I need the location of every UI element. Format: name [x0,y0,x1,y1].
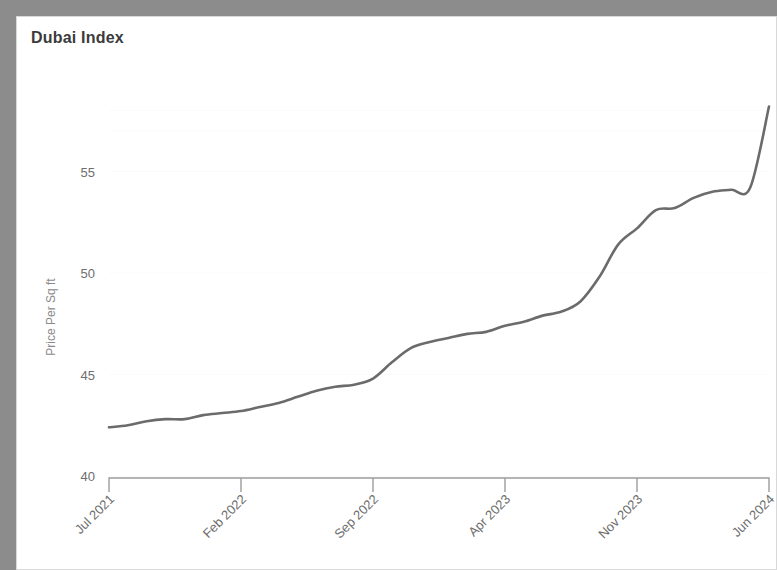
screenshot-frame: Dubai Index 40455055 Jul 2021Feb 2022Sep… [0,0,777,570]
chart-card: Dubai Index 40455055 Jul 2021Feb 2022Sep… [16,16,777,570]
x-axis [109,478,769,492]
series-line-dubai-index [109,107,769,428]
y-axis-tick-label: 55 [81,165,95,180]
y-axis-tick-label: 50 [81,266,95,281]
y-axis-title: Price Per Sq ft [44,278,58,356]
x-axis-line [109,478,769,492]
x-axis-tick-label: Feb 2022 [200,492,249,541]
x-axis-tick-label: Jun 2024 [729,492,777,540]
y-axis-tick-label: 40 [81,469,95,484]
y-axis-tick-label: 45 [81,368,95,383]
line-chart: 40455055 Jul 2021Feb 2022Sep 2022Apr 202… [17,17,777,570]
y-axis-tick-labels: 40455055 [81,165,95,485]
gridlines [109,111,769,476]
x-axis-tick-label: Nov 2023 [595,492,645,542]
x-axis-tick-label: Apr 2023 [465,492,513,540]
x-axis-tick-labels: Jul 2021Feb 2022Sep 2022Apr 2023Nov 2023… [72,492,777,542]
x-axis-tick-label: Sep 2022 [331,492,381,542]
x-axis-tick-label: Jul 2021 [72,492,117,537]
